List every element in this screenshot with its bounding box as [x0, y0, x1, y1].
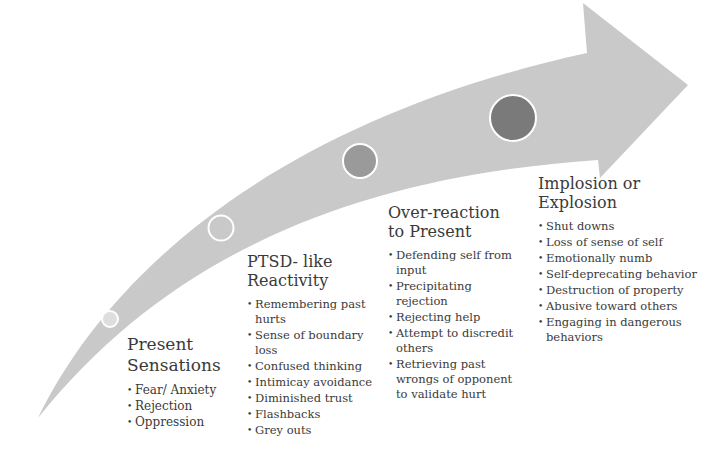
stage-title: Present Sensations — [127, 334, 247, 376]
stage-title-line: Present — [127, 334, 247, 355]
stage-bullet-list: Defending self from inputPrecipitating r… — [388, 248, 523, 402]
stage-present-sensations: Present Sensations Fear/ AnxietyRejectio… — [127, 334, 247, 431]
stage-bullet-item: Destruction of property — [538, 283, 703, 298]
stage-bullet-item: Diminished trust — [247, 391, 382, 406]
stage-bullet-item: Loss of sense of self — [538, 235, 703, 250]
stage-marker-4 — [490, 95, 536, 141]
stage-bullet-list: Fear/ AnxietyRejectionOppression — [127, 383, 247, 430]
stage-bullet-item: Precipitating rejection — [388, 279, 523, 309]
stage-title-line: Over-reaction — [388, 203, 523, 222]
stage-bullet-list: Shut downsLoss of sense of selfEmotional… — [538, 219, 703, 345]
stage-title-line: Reactivity — [247, 271, 382, 290]
stage-bullet-item: Remembering past hurts — [247, 297, 382, 327]
stage-over-reaction: Over-reaction to Present Defending self … — [388, 203, 523, 403]
stage-bullet-item: Abusive toward others — [538, 299, 703, 314]
stage-bullet-item: Attempt to discredit others — [388, 326, 523, 356]
stage-title-line: Sensations — [127, 355, 247, 376]
stage-bullet-item: Rejecting help — [388, 310, 523, 325]
stage-marker-2 — [209, 216, 234, 241]
stage-bullet-item: Rejection — [127, 399, 247, 414]
stage-title-line: Explosion — [538, 193, 703, 212]
stage-implosion-explosion: Implosion or Explosion Shut downsLoss of… — [538, 174, 703, 346]
stage-title: PTSD- like Reactivity — [247, 252, 382, 290]
stage-bullet-item: Self-deprecating behavior — [538, 267, 703, 282]
stage-bullet-item: Retrieving past wrongs of opponent to va… — [388, 357, 523, 402]
stage-bullet-item: Defending self from input — [388, 248, 523, 278]
stage-title: Implosion or Explosion — [538, 174, 703, 212]
stage-ptsd-like-reactivity: PTSD- like Reactivity Remembering past h… — [247, 252, 382, 439]
stage-bullet-item: Engaging in dangerous behaviors — [538, 315, 703, 345]
stage-marker-3 — [343, 144, 377, 178]
stage-marker-1 — [102, 311, 118, 327]
stage-title-line: Implosion or — [538, 174, 703, 193]
stage-bullet-item: Oppression — [127, 415, 247, 430]
stage-title: Over-reaction to Present — [388, 203, 523, 241]
stage-bullet-item: Grey outs — [247, 423, 382, 438]
stage-bullet-item: Confused thinking — [247, 359, 382, 374]
stage-bullet-item: Intimicay avoidance — [247, 375, 382, 390]
stage-title-line: PTSD- like — [247, 252, 382, 271]
stage-title-line: to Present — [388, 222, 523, 241]
stage-bullet-item: Sense of boundary loss — [247, 328, 382, 358]
stage-bullet-item: Flashbacks — [247, 407, 382, 422]
stage-bullet-item: Emotionally numb — [538, 251, 703, 266]
stage-bullet-item: Shut downs — [538, 219, 703, 234]
stage-bullet-item: Fear/ Anxiety — [127, 383, 247, 398]
stage-bullet-list: Remembering past hurtsSense of boundary … — [247, 297, 382, 438]
